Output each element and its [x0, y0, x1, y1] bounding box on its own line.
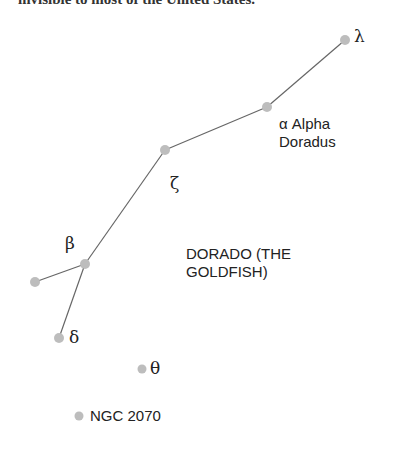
star-lambda [340, 35, 350, 45]
label-alpha-line1: α Alpha [279, 115, 336, 133]
label-alpha: α Alpha Doradus [279, 115, 336, 151]
label-delta: δ [69, 328, 79, 346]
constellation-name: DORADO (THE GOLDFISH) [186, 245, 291, 281]
label-lambda: λ [354, 27, 365, 45]
constellation-name-line1: DORADO (THE [186, 245, 291, 263]
star-delta [54, 333, 64, 343]
label-theta: θ [150, 359, 160, 377]
star-alpha [262, 102, 272, 112]
label-zeta: ζ [170, 174, 179, 192]
star-unnamed [30, 277, 40, 287]
label-beta: β [65, 234, 75, 252]
constellation-name-line2: GOLDFISH) [186, 263, 291, 281]
star-theta [138, 365, 147, 374]
label-alpha-line2: Doradus [279, 133, 336, 151]
constellation-diagram [0, 0, 394, 459]
constellation-lines [35, 40, 345, 338]
star-zeta [160, 145, 170, 155]
star-beta [80, 259, 90, 269]
label-ngc2070: NGC 2070 [90, 407, 161, 425]
stars [30, 35, 350, 421]
star-ngc2070 [75, 412, 84, 421]
